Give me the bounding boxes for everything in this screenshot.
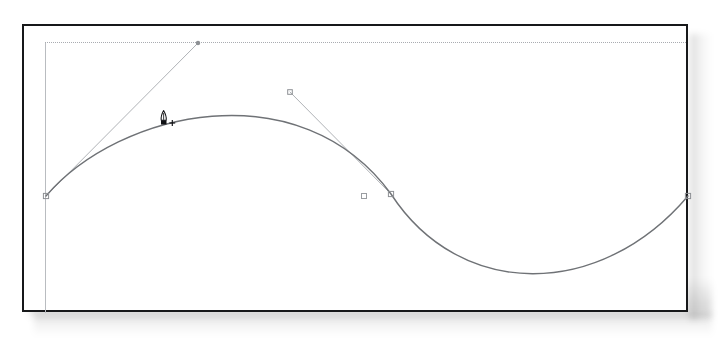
- screenshot-root: [0, 0, 722, 341]
- artboard-guide-left: [45, 42, 46, 313]
- artboard-guide-top: [45, 42, 686, 43]
- frame-drop-shadow-bottom: [34, 312, 712, 336]
- document-frame[interactable]: [22, 24, 688, 312]
- frame-drop-shadow-right: [690, 34, 712, 320]
